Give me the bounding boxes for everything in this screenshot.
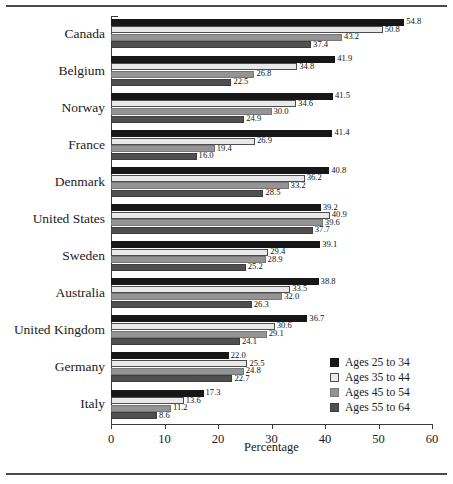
legend-item[interactable]: Ages 35 to 44 <box>330 371 410 385</box>
bar-row: 26.8 <box>111 71 432 78</box>
category-label-belgium: Belgium <box>0 63 105 79</box>
bar[interactable] <box>111 138 255 145</box>
bar-group: 41.934.826.822.5 <box>111 53 432 90</box>
bar-value-label: 36.7 <box>307 313 324 323</box>
bar-row: 37.4 <box>111 41 432 48</box>
bar-row: 43.2 <box>111 34 432 41</box>
bar-value-label: 28.5 <box>263 187 280 197</box>
bar-group: 36.730.629.124.1 <box>111 313 432 350</box>
bar[interactable] <box>111 130 332 137</box>
bar-value-label: 25.2 <box>246 261 263 271</box>
bar-row: 41.9 <box>111 56 432 63</box>
bar-value-label: 41.9 <box>335 53 352 63</box>
bar-row: 36.7 <box>111 315 432 322</box>
bar-row: 39.6 <box>111 219 432 226</box>
category-label-italy: Italy <box>0 396 105 412</box>
top-horizontal-rule <box>6 5 447 7</box>
legend-item[interactable]: Ages 55 to 64 <box>330 401 410 415</box>
bar-value-label: 34.6 <box>296 98 313 108</box>
legend-label: Ages 55 to 64 <box>345 401 410 414</box>
legend-label: Ages 25 to 34 <box>345 356 410 369</box>
bar[interactable] <box>111 100 296 107</box>
x-tick-20 <box>218 424 219 429</box>
bar[interactable] <box>111 360 247 367</box>
bar[interactable] <box>111 375 232 382</box>
bar-value-label: 22.0 <box>229 350 246 360</box>
bar-row: 16.0 <box>111 153 432 160</box>
bar-value-label: 40.8 <box>329 165 346 175</box>
bar-value-label: 38.8 <box>319 276 336 286</box>
bar-row: 38.8 <box>111 278 432 285</box>
category-label-france: France <box>0 137 105 153</box>
bar-value-label: 32.0 <box>282 291 299 301</box>
bar[interactable] <box>111 227 313 234</box>
legend-item[interactable]: Ages 25 to 34 <box>330 356 410 370</box>
bar-value-label: 11.2 <box>171 402 188 412</box>
bar-value-label: 22.7 <box>232 373 249 383</box>
bar[interactable] <box>111 41 311 48</box>
bar[interactable] <box>111 256 266 263</box>
bar-row: 40.8 <box>111 167 432 174</box>
bar[interactable] <box>111 286 290 293</box>
x-tick-10 <box>165 424 166 429</box>
bar-row: 36.2 <box>111 175 432 182</box>
bar[interactable] <box>111 190 263 197</box>
bar-row: 24.1 <box>111 338 432 345</box>
bar-group: 54.850.843.237.4 <box>111 16 432 53</box>
bar[interactable] <box>111 116 244 123</box>
bar[interactable] <box>111 352 229 359</box>
legend-swatch-icon <box>330 403 339 412</box>
bar-value-label: 33.2 <box>289 180 306 190</box>
bar-group: 38.833.532.026.3 <box>111 276 432 313</box>
bar-value-label: 22.5 <box>231 76 248 86</box>
bar-row: 33.5 <box>111 286 432 293</box>
bar-row: 29.1 <box>111 331 432 338</box>
bar[interactable] <box>111 368 244 375</box>
category-label-norway: Norway <box>0 100 105 116</box>
legend-swatch-icon <box>330 373 339 382</box>
bar[interactable] <box>111 412 157 419</box>
bar[interactable] <box>111 241 320 248</box>
category-label-australia: Australia <box>0 285 105 301</box>
category-label-united-kingdom: United Kingdom <box>0 322 105 338</box>
bar[interactable] <box>111 175 305 182</box>
legend-swatch-icon <box>330 358 339 367</box>
bar[interactable] <box>111 204 321 211</box>
bar-group: 41.426.919.416.0 <box>111 127 432 164</box>
x-axis-label: Percentage <box>111 440 432 455</box>
bar-value-label: 34.8 <box>297 61 314 71</box>
bar[interactable] <box>111 323 275 330</box>
bar-value-label: 54.8 <box>404 16 421 26</box>
bar-value-label: 30.0 <box>272 106 289 116</box>
x-tick-30 <box>272 424 273 429</box>
category-label-germany: Germany <box>0 359 105 375</box>
bar-row: 34.8 <box>111 63 432 70</box>
bar[interactable] <box>111 338 240 345</box>
bar[interactable] <box>111 301 252 308</box>
bar[interactable] <box>111 79 231 86</box>
bar[interactable] <box>111 249 268 256</box>
bar-value-label: 24.9 <box>244 113 261 123</box>
bar-row: 25.2 <box>111 264 432 271</box>
legend-item[interactable]: Ages 45 to 54 <box>330 386 410 400</box>
bar[interactable] <box>111 264 246 271</box>
bar-value-label: 37.7 <box>313 224 330 234</box>
legend-label: Ages 35 to 44 <box>345 371 410 384</box>
bar-value-label: 17.3 <box>204 387 221 397</box>
bar[interactable] <box>111 153 197 160</box>
bar-value-label: 37.4 <box>311 39 328 49</box>
chart-figure: 0102030405060 54.850.843.237.441.934.826… <box>0 0 453 484</box>
bar[interactable] <box>111 167 329 174</box>
legend-swatch-icon <box>330 388 339 397</box>
bar-value-label: 43.2 <box>342 31 359 41</box>
x-tick-0 <box>111 424 112 429</box>
bar[interactable] <box>111 219 323 226</box>
bar-value-label: 19.4 <box>215 143 232 153</box>
bar[interactable] <box>111 182 289 189</box>
bar[interactable] <box>111 19 404 26</box>
bar-row: 37.7 <box>111 227 432 234</box>
bar-row: 28.5 <box>111 190 432 197</box>
bar[interactable] <box>111 34 342 41</box>
bar[interactable] <box>111 212 330 219</box>
bar[interactable] <box>111 278 319 285</box>
